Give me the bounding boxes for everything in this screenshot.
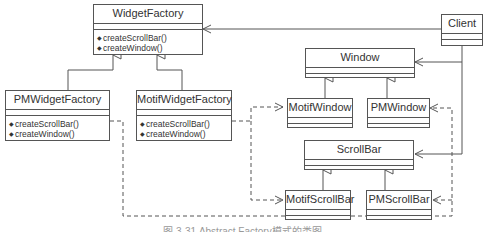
class-motif-scrollbar[interactable]: MotifScrollBar: [285, 190, 351, 220]
pm-factory-inheritance-line: [68, 55, 113, 90]
class-widget-factory[interactable]: WidgetFactory createScrollBar() createWi…: [93, 4, 203, 55]
operations-compartment: createScrollBar() createWindow(): [6, 116, 109, 141]
class-name: ScrollBar: [305, 141, 413, 160]
operation-create-window: createWindow(): [97, 43, 202, 53]
motif-factory-to-motif-window-dependency: [232, 107, 283, 121]
class-name: Window: [306, 49, 414, 68]
operations-compartment: createScrollBar() createWindow(): [94, 30, 202, 55]
operation-create-window: createWindow(): [9, 129, 109, 139]
operations-compartment: [367, 216, 431, 221]
class-name: PMWindow: [368, 99, 429, 118]
class-pm-scrollbar[interactable]: PMScrollBar: [366, 190, 432, 220]
motif-factory-to-motif-scrollbar-dependency: [251, 121, 283, 200]
client-to-window-association: [415, 46, 462, 62]
operations-compartment: [288, 124, 352, 129]
class-name: MotifScrollBar: [286, 191, 350, 210]
operations-compartment: [286, 216, 350, 221]
class-name: MotifWidgetFactory: [137, 91, 231, 110]
class-pm-window[interactable]: PMWindow: [367, 98, 430, 128]
class-name: PMScrollBar: [367, 191, 431, 210]
operations-compartment: [306, 74, 414, 79]
class-motif-window[interactable]: MotifWindow: [287, 98, 353, 128]
class-name: MotifWindow: [288, 99, 352, 118]
class-name: PMWidgetFactory: [6, 91, 109, 110]
class-name: WidgetFactory: [94, 5, 202, 24]
operation-create-window: createWindow(): [140, 129, 231, 139]
class-scrollbar[interactable]: ScrollBar: [304, 140, 414, 170]
operation-create-scrollbar: createScrollBar(): [97, 33, 202, 43]
class-client[interactable]: Client: [441, 14, 483, 46]
operations-compartment: createScrollBar() createWindow(): [137, 116, 231, 141]
motif-factory-inheritance-line: [157, 55, 182, 90]
figure-caption: 图 3-31 Abstract Factory模式的类图: [0, 225, 485, 232]
operation-create-scrollbar: createScrollBar(): [140, 119, 231, 129]
class-name: Client: [442, 15, 482, 34]
operations-compartment: [442, 40, 482, 45]
class-pm-widget-factory[interactable]: PMWidgetFactory createScrollBar() create…: [5, 90, 110, 141]
operations-compartment: [305, 166, 413, 171]
operations-compartment: [368, 124, 429, 129]
class-window[interactable]: Window: [305, 48, 415, 78]
class-motif-widget-factory[interactable]: MotifWidgetFactory createScrollBar() cre…: [136, 90, 232, 141]
operation-create-scrollbar: createScrollBar(): [9, 119, 109, 129]
